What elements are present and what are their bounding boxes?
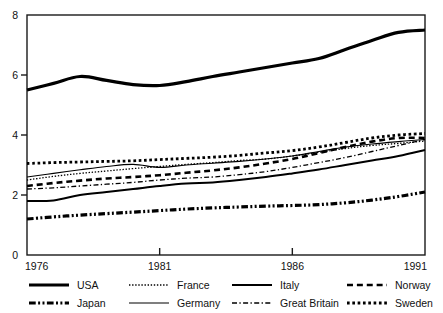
legend-swatch-norway-icon [345,278,389,292]
x-axis-tick-labels: 1976198119861991 [25,260,427,272]
legend-swatch-germany-icon [127,296,171,310]
y-axis-ticks [21,75,27,195]
legend-swatch-usa-icon [27,278,71,292]
legend-row: JapanGermanyGreat BritainSweden [27,294,443,312]
x-tick-label: 1976 [25,260,49,272]
legend-label: Sweden [395,297,433,309]
y-tick-label: 8 [12,9,18,21]
legend-item-italy[interactable]: Italy [230,278,345,292]
y-tick-label: 6 [12,69,18,81]
legend-swatch-japan-icon [27,296,71,310]
legend-label: Italy [280,279,299,291]
legend-row: USAFranceItalyNorway [27,276,443,294]
legend-label: Norway [395,279,431,291]
plot-frame [27,15,425,255]
chart-legend: USAFranceItalyNorwayJapanGermanyGreat Br… [27,276,443,312]
x-tick-label: 1986 [281,260,305,272]
x-tick-label: 1981 [148,260,172,272]
legend-label: Great Britain [280,297,339,309]
legend-item-usa[interactable]: USA [27,278,127,292]
y-tick-label: 2 [12,189,18,201]
y-axis-tick-labels: 02468 [12,9,18,261]
legend-swatch-sweden-icon [345,296,389,310]
legend-label: Japan [77,297,106,309]
legend-label: USA [77,279,99,291]
y-tick-label: 0 [12,249,18,261]
chart-figure: 02468 1976198119861991 USAFranceItalyNor… [0,0,443,313]
legend-item-germany[interactable]: Germany [127,296,230,310]
y-tick-label: 4 [12,129,18,141]
legend-item-japan[interactable]: Japan [27,296,127,310]
legend-item-france[interactable]: France [127,278,230,292]
legend-item-great-britain[interactable]: Great Britain [230,296,345,310]
legend-swatch-great-britain-icon [230,296,274,310]
legend-item-norway[interactable]: Norway [345,278,443,292]
plot-area-border [27,15,425,255]
legend-swatch-italy-icon [230,278,274,292]
legend-swatch-france-icon [127,278,171,292]
legend-label: Germany [177,297,220,309]
x-tick-label: 1991 [404,260,428,272]
legend-label: France [177,279,210,291]
legend-item-sweden[interactable]: Sweden [345,296,443,310]
line-chart-canvas: 02468 1976198119861991 [0,0,443,313]
